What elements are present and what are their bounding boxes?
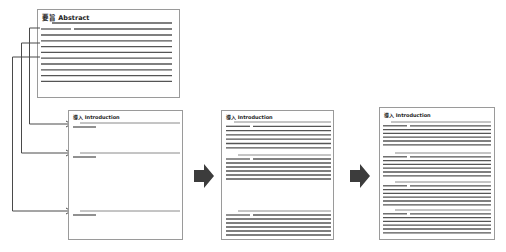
right-arrow-icon <box>194 164 214 188</box>
intro-box-1 <box>69 111 183 240</box>
abstract-title: 要旨 Abstract <box>42 13 89 22</box>
intro-box-3 <box>380 108 495 240</box>
introduction-document-step-2: 導入 Introduction <box>222 111 334 240</box>
abstract-document: 要旨 Abstract <box>38 10 180 98</box>
introduction-document-step-1: 導入 Introduction <box>69 111 183 240</box>
intro-title-1: 導入 Introduction <box>73 114 120 121</box>
intro-title-3: 導入 Introduction <box>384 112 431 119</box>
intro-title-2: 導入 Introduction <box>226 114 273 121</box>
expansion-diagram: 要旨 Abstract 導入 Introduction 導入 Introduct… <box>0 0 506 252</box>
introduction-document-step-3: 導入 Introduction <box>380 108 495 240</box>
right-arrow-icon <box>350 164 370 188</box>
